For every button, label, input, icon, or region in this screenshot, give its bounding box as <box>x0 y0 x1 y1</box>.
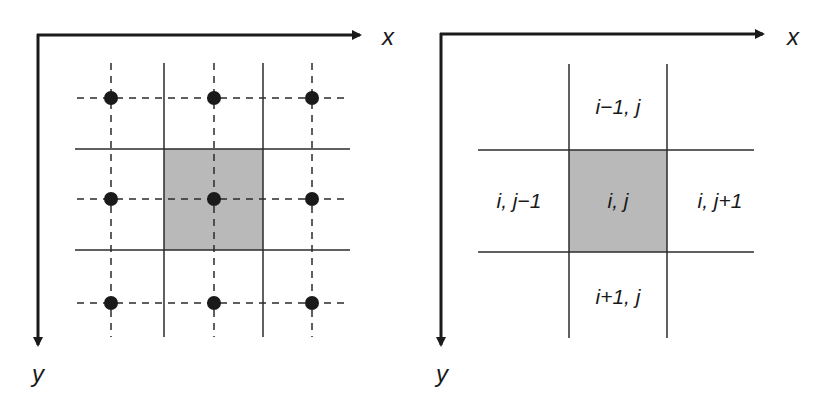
cell-label-east: i, j+1 <box>698 189 743 212</box>
node-dot <box>305 296 319 310</box>
grid-nodes <box>104 91 319 310</box>
cell-label-center: i, j <box>608 189 630 212</box>
cell-label-west: i, j−1 <box>497 189 542 212</box>
node-dot <box>305 192 319 206</box>
node-dot <box>104 91 118 105</box>
cell-label-south: i+1, j <box>596 285 642 308</box>
y-axis-label: y <box>434 360 450 387</box>
cell-label-north: i−1, j <box>596 95 642 118</box>
node-dot <box>104 296 118 310</box>
y-axis-label: y <box>30 360 46 387</box>
finite-volume-grid-figure: x y i−1, j i, j−1 i, j i, j+1 i+1, j x y <box>0 0 831 405</box>
node-dot <box>104 192 118 206</box>
node-dot <box>305 91 319 105</box>
node-dot <box>207 91 221 105</box>
x-axis-label: x <box>381 23 395 50</box>
node-dot-center <box>207 192 221 206</box>
node-dot <box>207 296 221 310</box>
left-diagram: x y <box>30 23 395 387</box>
x-axis-label: x <box>786 23 800 50</box>
right-diagram: i−1, j i, j−1 i, j i, j+1 i+1, j x y <box>434 23 800 387</box>
